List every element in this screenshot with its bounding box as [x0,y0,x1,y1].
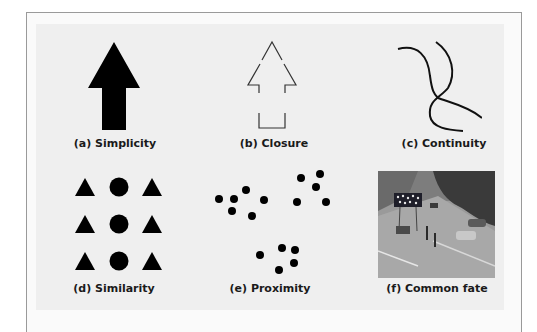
solid-arrow-icon [86,40,142,132]
caption-continuity: (c) Continuity [364,137,524,150]
caption-simplicity: (a) Simplicity [35,137,195,150]
caption-closure: (b) Closure [194,137,354,150]
caption-proximity: (e) Proximity [190,282,350,295]
proximity-dot-clusters [200,150,350,280]
caption-similarity: (d) Similarity [34,282,194,295]
street-photo-common-fate [378,171,495,278]
caption-common-fate: (f) Common fate [357,282,517,295]
similarity-shapes-grid [70,176,170,276]
crossing-curves-icon [378,36,482,136]
broken-arrow-outline-icon [244,38,300,136]
